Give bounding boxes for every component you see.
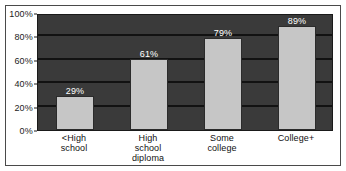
bar: 89% [278, 26, 316, 130]
x-axis-category-label: <High school [37, 133, 111, 153]
y-axis: 0%20%40%60%80%100% [0, 0, 37, 131]
x-axis: <High schoolHigh school diplomaSome coll… [37, 133, 333, 169]
y-axis-tick-label: 20% [14, 103, 33, 113]
plot-area: 29%61%79%89% [37, 14, 333, 131]
y-axis-tick-label: 40% [14, 79, 33, 89]
bar-chart-figure: 0%20%40%60%80%100% 29%61%79%89% <High sc… [0, 0, 346, 171]
bar: 29% [56, 96, 94, 130]
bar-value-label: 89% [288, 16, 307, 26]
bar: 79% [204, 38, 242, 130]
y-axis-tick-label: 80% [14, 32, 33, 42]
bar-value-label: 61% [140, 49, 159, 59]
bar-value-label: 29% [66, 86, 85, 96]
x-axis-category-label: Some college [185, 133, 259, 153]
y-axis-tick-label: 0% [20, 126, 33, 136]
bar: 61% [130, 59, 168, 130]
x-axis-category-label: College+ [259, 133, 333, 143]
y-axis-tick-label: 60% [14, 56, 33, 66]
x-axis-category-label: High school diploma [111, 133, 185, 163]
y-axis-tick-label: 100% [9, 9, 33, 19]
bar-value-label: 79% [214, 28, 233, 38]
